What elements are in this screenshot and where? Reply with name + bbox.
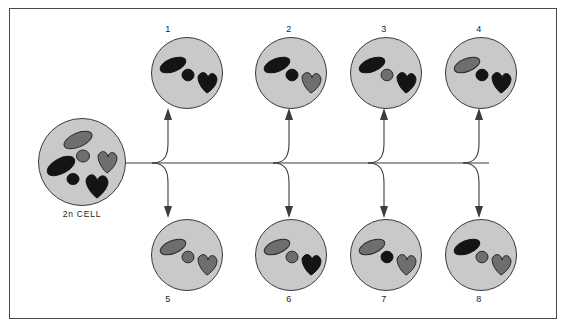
chromosome-dot xyxy=(286,69,298,81)
chromosome-rod-gray xyxy=(61,127,94,152)
chromosome-chevron xyxy=(492,254,511,274)
chromosome-chevron xyxy=(492,72,511,92)
gamete-label-3: 3 xyxy=(376,24,392,34)
chromosome-chevron-black xyxy=(86,174,108,197)
chromosome-chevron xyxy=(302,72,321,92)
chromosome-dot-gray xyxy=(76,150,89,162)
gamete-cell-5 xyxy=(151,219,223,291)
chromosome-dot xyxy=(381,251,393,263)
gamete-label-6: 6 xyxy=(281,294,297,304)
gamete-cell-6 xyxy=(255,219,327,291)
gamete-cell-4 xyxy=(445,37,517,109)
chromosome-chevron xyxy=(397,254,416,274)
chromosome-chevron xyxy=(397,72,416,92)
gamete-cell-3 xyxy=(350,37,422,109)
chromosome-chevron xyxy=(198,254,217,274)
gamete-cell-1 xyxy=(151,37,223,109)
parent-cell-label: 2n CELL xyxy=(22,209,142,219)
gamete-label-5: 5 xyxy=(160,294,176,304)
chromosome-dot xyxy=(286,251,298,263)
chromosome-dot xyxy=(381,69,393,81)
gamete-label-1: 1 xyxy=(160,24,176,34)
chromosome-dot xyxy=(182,251,194,263)
chromosome-dot xyxy=(182,69,194,81)
gamete-cell-8 xyxy=(445,219,517,291)
diagram-page: 2n CELL 1 2 3 4 xyxy=(0,0,568,330)
gamete-label-8: 8 xyxy=(471,294,487,304)
gamete-label-2: 2 xyxy=(281,24,297,34)
gamete-cell-2 xyxy=(255,37,327,109)
gamete-label-4: 4 xyxy=(471,24,487,34)
chromosome-dot xyxy=(476,69,488,81)
chromosome-chevron xyxy=(302,254,321,274)
gamete-label-7: 7 xyxy=(376,294,392,304)
gamete-cell-7 xyxy=(350,219,422,291)
chromosome-chevron xyxy=(198,72,217,92)
chromosome-dot xyxy=(476,251,488,263)
chromosome-dot-black xyxy=(67,173,79,184)
chromosome-chevron-gray xyxy=(98,151,117,172)
parent-cell xyxy=(38,118,126,206)
